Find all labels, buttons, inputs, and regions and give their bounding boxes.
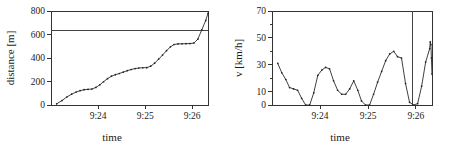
data-point-marker <box>158 58 160 60</box>
data-point-marker <box>321 69 323 71</box>
y-tick-label: 200 <box>31 77 46 87</box>
data-point-marker <box>385 60 387 62</box>
data-point-marker <box>377 81 379 83</box>
left-data-series <box>56 13 209 105</box>
data-point-marker <box>421 85 423 87</box>
data-point-marker <box>162 54 164 56</box>
x-tick-label: 9:24 <box>90 111 107 121</box>
data-point-marker <box>349 88 351 90</box>
x-tick-label: 9:25 <box>137 111 154 121</box>
data-point-marker <box>337 89 339 91</box>
y-tick-label: 800 <box>31 6 46 16</box>
data-point-marker <box>71 93 73 95</box>
figure-container: 9:249:259:26 0200400600800 time distance… <box>0 0 450 148</box>
x-tick-label: 9:26 <box>184 111 201 121</box>
data-point-marker <box>95 87 97 89</box>
data-point-marker <box>353 80 355 82</box>
data-point-marker <box>333 80 335 82</box>
data-point-marker <box>201 29 203 31</box>
x-tick-label: 9:26 <box>407 111 424 121</box>
data-point-marker <box>293 88 295 90</box>
data-point-marker <box>301 97 303 99</box>
data-point-marker <box>397 56 399 58</box>
data-point-marker <box>130 69 132 71</box>
data-point-marker <box>87 89 89 91</box>
plot-frame-path <box>51 11 208 105</box>
left-plot-frame <box>51 11 208 105</box>
data-point-marker <box>389 53 391 55</box>
data-point-marker <box>289 87 291 89</box>
data-point-marker <box>297 89 299 91</box>
data-point-marker <box>329 68 331 70</box>
data-point-marker <box>431 57 433 59</box>
x-tick-label: 9:25 <box>360 111 377 121</box>
data-point-marker <box>430 44 432 46</box>
y-tick-label: 600 <box>31 30 46 40</box>
data-point-marker <box>142 67 144 69</box>
data-point-marker <box>177 43 179 45</box>
data-point-marker <box>103 81 105 83</box>
data-point-marker <box>56 103 58 105</box>
data-point-marker <box>79 90 81 92</box>
data-point-marker <box>305 104 307 106</box>
velocity-vs-time-chart: 9:249:259:26 010305070 time v [km/h] <box>225 0 450 148</box>
data-point-marker <box>405 83 407 85</box>
data-point-marker <box>431 73 433 75</box>
data-point-marker <box>401 57 403 59</box>
data-point-marker <box>205 20 207 22</box>
data-point-marker <box>325 67 327 69</box>
y-tick-label: 50 <box>257 33 267 43</box>
data-point-marker <box>285 79 287 81</box>
data-point-marker <box>138 67 140 69</box>
data-point-marker <box>118 73 120 75</box>
data-point-marker <box>425 61 427 63</box>
data-point-marker <box>429 48 431 50</box>
y-tick-label: 70 <box>257 6 267 16</box>
data-point-marker <box>134 68 136 70</box>
data-point-marker <box>313 92 315 94</box>
right-x-axis-title: time <box>330 131 350 143</box>
right-plot-frame <box>272 11 432 105</box>
right-data-series <box>277 41 433 106</box>
data-point-marker <box>281 72 283 74</box>
data-point-marker <box>173 44 175 46</box>
data-point-marker <box>409 101 411 103</box>
data-point-marker <box>309 104 311 106</box>
data-point-marker <box>83 89 85 91</box>
y-tick-label: 0 <box>261 100 266 110</box>
data-point-marker <box>126 70 128 72</box>
left-axis-ticks <box>47 11 192 109</box>
y-tick-label: 30 <box>257 60 267 70</box>
data-point-marker <box>317 75 319 77</box>
data-point-marker <box>115 74 117 76</box>
data-point-marker <box>361 100 363 102</box>
data-point-marker <box>381 71 383 73</box>
data-point-marker <box>207 13 209 15</box>
plot-frame-path <box>272 11 432 105</box>
data-point-marker <box>373 93 375 95</box>
data-point-marker <box>111 75 113 77</box>
data-point-marker <box>369 104 371 106</box>
left-x-tick-labels: 9:249:259:26 <box>90 111 201 121</box>
x-tick-label: 9:24 <box>312 111 329 121</box>
data-point-marker <box>61 100 63 102</box>
data-point-marker <box>417 103 419 105</box>
data-point-marker <box>154 62 156 64</box>
y-tick-label: 10 <box>257 87 267 97</box>
data-point-marker <box>429 41 431 43</box>
y-tick-label: 400 <box>31 53 46 63</box>
data-point-marker <box>357 89 359 91</box>
data-point-marker <box>341 93 343 95</box>
data-point-marker <box>122 71 124 73</box>
right-x-tick-labels: 9:249:259:26 <box>312 111 425 121</box>
data-point-marker <box>66 96 68 98</box>
data-point-marker <box>99 84 101 86</box>
data-point-marker <box>365 104 367 106</box>
data-point-marker <box>197 38 199 40</box>
distance-vs-time-chart: 9:249:259:26 0200400600800 time distance… <box>0 0 225 148</box>
right-y-tick-labels: 010305070 <box>257 6 267 110</box>
right-y-axis-title: v [km/h] <box>232 39 244 77</box>
data-point-marker <box>345 93 347 95</box>
y-tick-label: 0 <box>40 100 45 110</box>
data-point-marker <box>393 50 395 52</box>
